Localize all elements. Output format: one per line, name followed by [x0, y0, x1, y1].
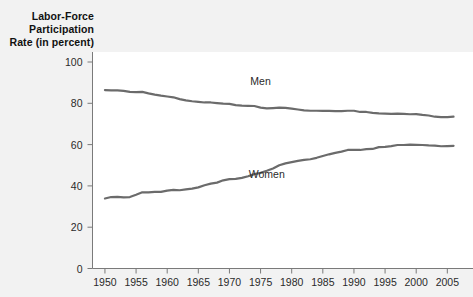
y-axis-tick-label: 60	[71, 139, 83, 151]
line-chart: 020406080100 195019551960196519701975198…	[0, 0, 473, 297]
plot-area-background	[93, 52, 473, 269]
x-axis-tick-label: 1985	[311, 276, 335, 288]
x-axis-tick-label: 2000	[405, 276, 429, 288]
x-axis-tick-label: 1980	[280, 276, 304, 288]
x-axis-tick-label: 1955	[124, 276, 148, 288]
y-axis-ticks: 020406080100	[65, 56, 93, 275]
x-axis-tick-label: 1990	[342, 276, 366, 288]
series-label-women: Women	[249, 168, 285, 180]
x-axis-ticks: 1950195519601965197019751980198519901995…	[93, 269, 459, 288]
x-axis-tick-label: 1960	[156, 276, 180, 288]
x-axis-tick-label: 1975	[249, 276, 273, 288]
x-axis-tick-label: 1950	[93, 276, 117, 288]
x-axis-tick-label: 1995	[373, 276, 397, 288]
x-axis-tick-label: 2005	[436, 276, 460, 288]
x-axis-tick-label: 1965	[187, 276, 211, 288]
chart-container: Labor-Force Participation Rate (in perce…	[0, 0, 473, 297]
y-axis-tick-label: 0	[77, 263, 83, 275]
y-axis-tick-label: 40	[71, 180, 83, 192]
y-axis-tick-label: 100	[65, 56, 83, 68]
y-axis-tick-label: 80	[71, 97, 83, 109]
y-axis-tick-label: 20	[71, 221, 83, 233]
series-label-men: Men	[250, 75, 271, 87]
x-axis-tick-label: 1970	[218, 276, 242, 288]
